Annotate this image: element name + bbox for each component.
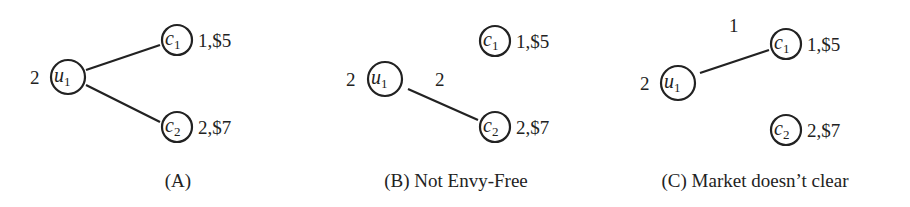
caption-b: (B) Not Envy-Free	[384, 170, 528, 192]
caption-a: (A)	[165, 170, 191, 192]
user-demand: 2	[346, 69, 356, 90]
item-c2-info: 2,$7	[516, 117, 549, 138]
panel-b: 2 2 u1 c1 1,$5 c2 2,$7 (B) Not Envy-Free	[346, 26, 549, 192]
diagram-canvas: 2 u1 c1 1,$5 c2 2,$7 (A) 2 2 u1 c1 1,$5 …	[0, 0, 910, 207]
user-demand: 2	[640, 73, 650, 94]
edge-u1-c2	[86, 85, 160, 122]
edge-label: 1	[729, 15, 739, 36]
edge-u1-c2	[408, 89, 478, 120]
item-c1-info: 1,$5	[516, 31, 549, 52]
panel-c: 1 2 u1 c1 1,$5 c2 2,$7 (C) Market doesn’…	[640, 15, 849, 192]
edge-u1-c1	[86, 45, 160, 70]
edge-label: 2	[435, 69, 445, 90]
edge-u1-c1	[700, 50, 769, 73]
user-demand: 2	[30, 67, 40, 88]
caption-c: (C) Market doesn’t clear	[662, 170, 850, 192]
item-c2-info: 2,$7	[198, 117, 231, 138]
item-c2-info: 2,$7	[807, 120, 840, 141]
item-c1-info: 1,$5	[807, 34, 840, 55]
item-c1-info: 1,$5	[198, 30, 231, 51]
panel-a: 2 u1 c1 1,$5 c2 2,$7 (A)	[30, 25, 231, 192]
